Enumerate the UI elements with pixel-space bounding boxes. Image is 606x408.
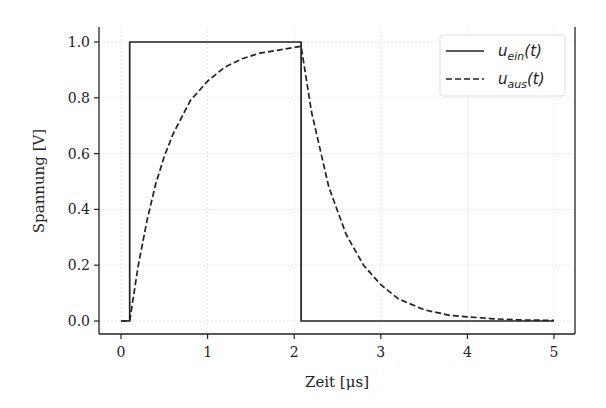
y-tick-label: 0.8 (68, 90, 90, 106)
x-tick-label: 0 (117, 344, 126, 360)
y-tick-label: 0.6 (68, 146, 90, 162)
y-tick-label: 1.0 (68, 34, 90, 50)
x-tick-label: 5 (550, 344, 559, 360)
x-axis-label: Zeit [μs] (305, 373, 369, 391)
y-tick-label: 0.2 (68, 257, 90, 273)
y-tick-label: 0.0 (68, 313, 90, 329)
legend: uein(t) uaus(t) (440, 35, 565, 96)
x-tick-label: 3 (376, 344, 385, 360)
x-tick-label: 4 (463, 344, 472, 360)
x-tick-label: 1 (203, 344, 212, 360)
y-tick-label: 0.4 (68, 201, 90, 217)
y-axis-label: Spannung [V] (30, 129, 48, 233)
chart: 0123450.00.20.40.60.81.0 Zeit [μs] Spann… (0, 0, 606, 408)
x-tick-label: 2 (290, 344, 299, 360)
